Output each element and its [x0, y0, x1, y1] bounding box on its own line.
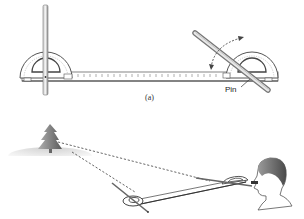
- pin-label: Pin: [225, 85, 237, 94]
- apparatus: [112, 176, 252, 212]
- figure-caption: (a): [145, 93, 154, 102]
- part-a: [20, 5, 278, 95]
- observer: [251, 158, 292, 210]
- tree-icon: [38, 124, 62, 153]
- vertical-sight-rod: [43, 5, 48, 95]
- diagram-figure: (a) Pin: [0, 0, 304, 219]
- part-b: [0, 124, 292, 213]
- eyepiece: [251, 181, 258, 184]
